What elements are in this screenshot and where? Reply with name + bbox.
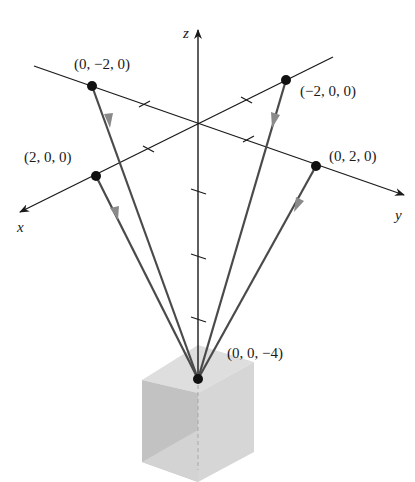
point-apex: [193, 374, 203, 384]
arrow-down-icon: [271, 112, 280, 128]
point-label-pos-y: (0, 2, 0): [329, 148, 377, 165]
point-label-neg-y: (0, −2, 0): [74, 56, 130, 73]
point-pos-y: [311, 161, 321, 171]
point-label-pos-x: (2, 0, 0): [24, 149, 72, 166]
arrow-down-icon: [110, 206, 119, 220]
point-pos-x: [91, 171, 101, 181]
tick-marks: [139, 97, 254, 322]
arrow-down-icon: [294, 197, 304, 212]
pyramid-vectors-diagram: z x y (0, −2, 0) (−2, 0, 0) (2, 0, 0) (0…: [0, 0, 415, 482]
point-label-apex: (0, 0, −4): [227, 345, 283, 362]
z-axis-label: z: [182, 25, 189, 41]
line-from-neg-y: [92, 86, 198, 379]
point-label-neg-x: (−2, 0, 0): [300, 83, 356, 100]
point-neg-x: [281, 75, 291, 85]
y-axis-label: y: [393, 207, 402, 223]
point-neg-y: [87, 81, 97, 91]
line-from-pos-x: [96, 176, 198, 379]
x-axis-label: x: [16, 219, 24, 235]
